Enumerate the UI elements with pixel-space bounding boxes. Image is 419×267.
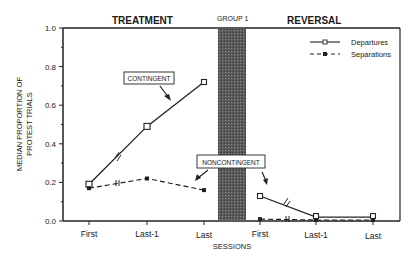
- x-tick-label: Last: [196, 230, 213, 240]
- legend: Departures Separations: [310, 38, 391, 59]
- y-tick-label: 0.0: [45, 217, 57, 226]
- x-tick-label: Last-1: [304, 230, 328, 240]
- line-chart: TREATMENT GROUP 1 REVERSAL 0.0 0.2 0.4 0…: [0, 0, 419, 267]
- x-tick-label: Last-1: [135, 229, 159, 239]
- treatment-departures-markers: [86, 80, 207, 188]
- phase-label-reversal: REVERSAL: [287, 15, 341, 26]
- annotation-contingent: CONTINGENT: [124, 72, 174, 101]
- svg-text:CONTINGENT: CONTINGENT: [128, 75, 171, 82]
- x-tick-label: First: [81, 229, 98, 239]
- x-tick-label: Last: [365, 231, 382, 241]
- y-tick-label: 0.8: [45, 63, 57, 72]
- reversal-departures-markers: [258, 194, 376, 219]
- y-tick-label: 0.4: [45, 140, 57, 149]
- phase-label-group: GROUP 1: [217, 15, 248, 22]
- treatment-separations-markers: [87, 177, 206, 193]
- y-tick-label: 0.2: [45, 178, 57, 187]
- phase-label-treatment: TREATMENT: [112, 15, 173, 26]
- phase-divider-bar: [218, 28, 246, 221]
- x-tick-label: First: [252, 229, 269, 239]
- treatment-departures-line: [89, 82, 204, 184]
- y-tick-label: 1.0: [45, 24, 57, 33]
- y-axis-label-line1: MEDIAN PROPORTION OF: [15, 77, 24, 171]
- legend-separations: Separations: [351, 50, 391, 59]
- y-axis-label-line2: PROTEST TRIALS: [25, 92, 34, 156]
- x-axis-label: SESSIONS: [213, 242, 251, 251]
- legend-departures: Departures: [351, 38, 388, 47]
- y-tick-label: 0.6: [45, 101, 57, 110]
- svg-text:NONCONTINGENT: NONCONTINGENT: [202, 159, 259, 166]
